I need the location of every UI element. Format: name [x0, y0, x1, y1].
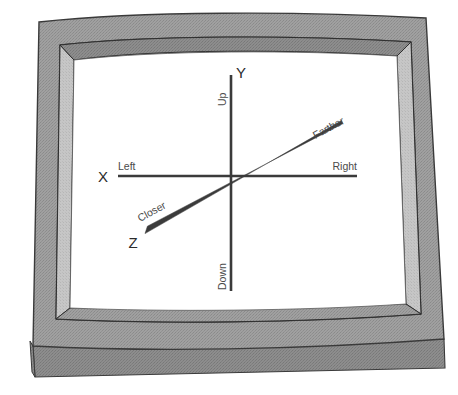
monitor-screen	[70, 52, 406, 310]
x-axis-positive-label: Right	[332, 160, 357, 172]
z-axis-letter-label: Z	[128, 234, 137, 251]
monitor-diagram: X Left Right Y Up Down Z Closer Farther	[0, 0, 458, 395]
y-axis-letter-label: Y	[236, 64, 246, 81]
x-axis-letter-label: X	[98, 168, 108, 185]
y-axis-positive-label: Up	[216, 92, 228, 106]
figure-canvas: X Left Right Y Up Down Z Closer Farther	[0, 0, 458, 395]
x-axis-negative-label: Left	[118, 160, 136, 172]
y-axis-negative-label: Down	[216, 263, 228, 290]
